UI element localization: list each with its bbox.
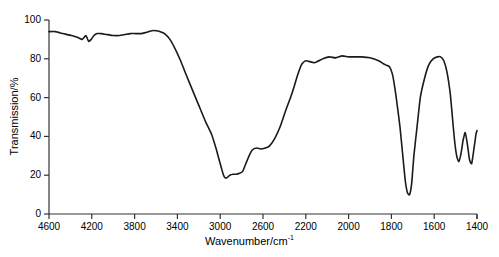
- y-axis-title: Transmission/%: [9, 57, 20, 177]
- spectrum-curve: [49, 31, 477, 195]
- x-tick-label: 3800: [123, 222, 145, 232]
- y-tick-label: 60: [0, 93, 41, 103]
- x-tick-label: 4200: [81, 222, 103, 232]
- y-tick-label: 80: [0, 54, 41, 64]
- x-tick-label: 2000: [337, 222, 359, 232]
- y-tick-label: 20: [0, 170, 41, 180]
- y-tick-label: 40: [0, 131, 41, 141]
- ir-spectrum-figure: 4600420038003400300026002200200018001600…: [0, 0, 499, 257]
- x-tick-label: 2200: [295, 222, 317, 232]
- y-tick-label: 0: [0, 209, 41, 219]
- x-tick-label: 1400: [466, 222, 488, 232]
- axis-ticks: [44, 20, 477, 219]
- x-tick-label: 4600: [38, 222, 60, 232]
- plot-canvas: [0, 0, 499, 257]
- y-tick-label: 100: [0, 15, 41, 25]
- x-tick-label: 1800: [380, 222, 402, 232]
- x-axis-title-text: Wavenumber/cm: [205, 235, 288, 247]
- x-tick-label: 1600: [423, 222, 445, 232]
- x-axis-title-exponent: -1: [288, 234, 294, 241]
- axis-lines: [49, 20, 477, 214]
- x-tick-label: 3400: [166, 222, 188, 232]
- x-tick-label: 2600: [252, 222, 274, 232]
- x-tick-label: 3000: [209, 222, 231, 232]
- x-axis-title: Wavenumber/cm-1: [0, 236, 499, 247]
